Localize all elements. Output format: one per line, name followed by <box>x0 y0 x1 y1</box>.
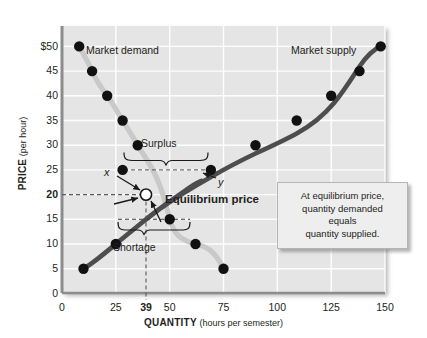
y-axis-title-main: PRICE <box>17 159 28 191</box>
y-tick-15: 15 <box>22 213 58 224</box>
chart-canvas <box>0 0 427 338</box>
point-x-label: x <box>104 166 110 178</box>
x-axis-title: QUANTITY (hours per semester) <box>0 317 427 328</box>
x-tick-75: 75 <box>204 301 244 313</box>
x-tick-100: 100 <box>257 301 297 313</box>
x-tick-125: 125 <box>311 301 351 313</box>
callout-line-2: quantity demanded <box>283 203 402 216</box>
x-axis-title-unit: (hours per semester) <box>199 318 283 328</box>
shortage-label: Shortage <box>113 241 156 253</box>
surplus-label: Surplus <box>141 137 177 149</box>
y-tick-5: 5 <box>22 263 58 274</box>
demand-curve-label: Market demand <box>86 44 159 56</box>
y-tick-0: 0 <box>22 288 58 299</box>
point-y-label: y <box>218 176 224 188</box>
y-tick-45: 45 <box>22 65 58 76</box>
callout-line-4: quantity supplied. <box>283 228 402 241</box>
y-tick-10: 10 <box>22 238 58 249</box>
equilibrium-marker <box>140 189 151 200</box>
y-axis-title-unit: (per hour) <box>18 117 28 157</box>
x-axis-title-main: QUANTITY <box>144 317 197 328</box>
x-tick-150: 150 <box>365 301 405 313</box>
x-tick-0: 0 <box>42 301 82 313</box>
callout-line-3: equals <box>283 215 402 228</box>
supply-demand-chart: $50 45 40 35 30 25 20 15 10 5 0 0 25 39 … <box>0 0 427 338</box>
equilibrium-callout-box: At equilibrium price, quantity demanded … <box>277 182 408 249</box>
callout-line-1: At equilibrium price, <box>283 190 402 203</box>
y-tick-50: $50 <box>22 41 58 52</box>
y-axis-title: PRICE (per hour) <box>17 94 28 214</box>
x-tick-50: 50 <box>150 301 190 313</box>
equilibrium-price-label: Equilibrium price <box>165 193 259 205</box>
supply-curve-label: Market supply <box>291 44 356 56</box>
